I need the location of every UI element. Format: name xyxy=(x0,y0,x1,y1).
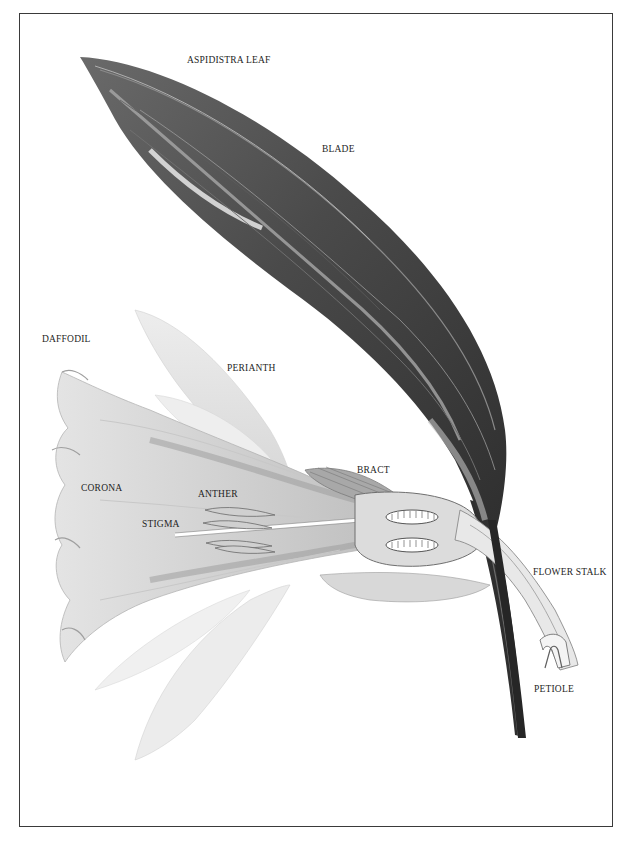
label-aspidistra-leaf: ASPIDISTRA LEAF xyxy=(187,56,271,66)
daffodil-drawing xyxy=(52,310,578,760)
label-petiole: PETIOLE xyxy=(534,685,574,695)
label-perianth: PERIANTH xyxy=(227,364,276,374)
label-flower-stalk: FLOWER STALK xyxy=(533,568,607,578)
label-bract: BRACT xyxy=(357,466,390,476)
label-anther: ANTHER xyxy=(198,490,238,500)
label-stigma: STIGMA xyxy=(142,520,180,530)
aspidistra-leaf-drawing xyxy=(80,57,524,737)
botanical-illustration xyxy=(0,0,632,848)
label-daffodil: DAFFODIL xyxy=(42,335,91,345)
label-blade: BLADE xyxy=(322,145,355,155)
label-corona: CORONA xyxy=(81,484,122,494)
